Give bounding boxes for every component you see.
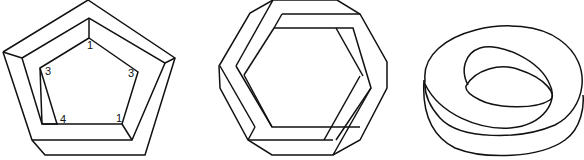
corner-label: 4: [60, 113, 66, 125]
corner-label: 3: [45, 65, 51, 77]
corner-label: 3: [128, 67, 134, 79]
impossible-figures-diagram: 1 3 3 4 1: [0, 0, 584, 160]
corner-label: 1: [87, 39, 93, 51]
impossible-hexagon-figure: [219, 0, 387, 155]
mobius-torus-figure: [424, 26, 584, 156]
figures-svg: 1 3 3 4 1: [0, 0, 584, 160]
corner-label: 1: [116, 112, 122, 124]
impossible-pentagon-figure: 1 3 3 4 1: [3, 0, 175, 155]
